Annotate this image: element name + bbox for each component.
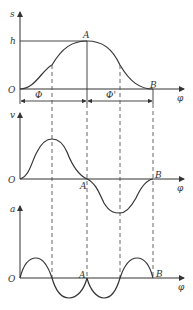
motion-diagram: s h O A B φ Φ Φ' v O A B φ a O A B φ <box>0 0 193 310</box>
phi-label-3: φ <box>178 282 185 292</box>
h-label: h <box>10 36 16 46</box>
phi-label-1: φ <box>177 93 184 103</box>
origin-label-2: O <box>8 175 16 185</box>
point-b-label-3: B <box>155 269 163 279</box>
velocity-curve <box>20 139 153 213</box>
phi-prime-interval-label: Φ' <box>106 90 116 100</box>
s-axis-label: s <box>10 9 15 19</box>
a-axis-label: a <box>10 204 15 214</box>
point-b-label-1: B <box>149 80 157 90</box>
point-a-label-2: A <box>79 181 87 191</box>
origin-label-1: O <box>8 85 16 95</box>
displacement-curve <box>20 41 153 89</box>
origin-label-3: O <box>8 274 16 284</box>
dashed-guides <box>52 65 153 278</box>
displacement-panel: s h O A B φ Φ Φ' <box>8 9 184 104</box>
phi-label-2: φ <box>177 183 184 193</box>
phi-interval-label: Φ <box>35 90 42 100</box>
velocity-panel: v O A B φ <box>8 110 184 213</box>
point-b-label-2: B <box>154 170 162 180</box>
v-axis-label: v <box>10 110 15 120</box>
point-a-label-1: A <box>82 30 90 40</box>
point-a-label-3: A <box>78 270 86 280</box>
acceleration-panel: a O A B φ <box>8 204 185 298</box>
